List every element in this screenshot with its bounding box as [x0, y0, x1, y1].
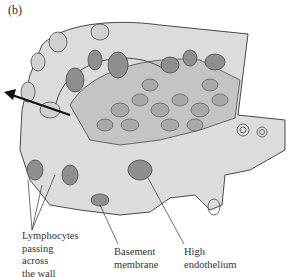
label-lymphocytes: Lymphocytes passing across the wall — [22, 230, 79, 277]
label-basement-membrane: Basement membrane — [114, 246, 158, 271]
label-high-endothelium: High endothelium — [184, 246, 237, 271]
label-line: endothelium — [184, 259, 237, 272]
label-line: High — [184, 246, 237, 259]
label-line: membrane — [114, 259, 158, 272]
label-line: across — [22, 255, 79, 268]
label-line: Basement — [114, 246, 158, 259]
label-line: passing — [22, 243, 79, 256]
label-line: the wall — [22, 268, 79, 277]
label-line: Lymphocytes — [22, 230, 79, 243]
